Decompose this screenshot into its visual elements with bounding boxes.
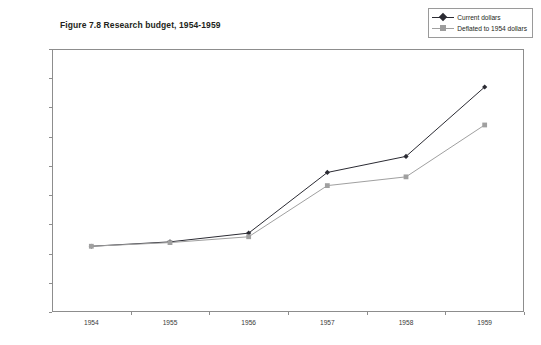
y-axis-tick-mark: [49, 312, 52, 313]
x-axis-tick-label: 1959: [477, 319, 492, 326]
data-point-marker: [404, 174, 409, 179]
x-axis-tick-label: 1955: [163, 319, 178, 326]
chart-legend: Current dollars Deflated to 1954 dollars: [428, 8, 533, 38]
x-axis-tick-mark: [367, 312, 368, 315]
legend-label-deflated-dollars: Deflated to 1954 dollars: [457, 25, 527, 32]
chart-figure: Figure 7.8 Research budget, 1954-1959 Cu…: [0, 0, 541, 345]
series-layer: [52, 49, 524, 312]
legend-swatch-current-dollars: [432, 13, 454, 22]
data-point-marker: [482, 123, 487, 128]
series-line: [91, 87, 484, 246]
x-axis-tick-label: 1958: [399, 319, 414, 326]
legend-item-deflated-dollars: Deflated to 1954 dollars: [432, 23, 527, 34]
data-point-marker: [168, 240, 173, 245]
series-line: [91, 125, 484, 246]
chart-title: Figure 7.8 Research budget, 1954-1959: [60, 20, 221, 30]
x-axis-tick-mark: [524, 312, 525, 315]
x-axis-tick-label: 1954: [84, 319, 99, 326]
x-axis-tick-mark: [131, 312, 132, 315]
legend-item-current-dollars: Current dollars: [432, 12, 527, 23]
data-point-marker: [325, 183, 330, 188]
legend-swatch-deflated-dollars: [432, 24, 454, 33]
legend-label-current-dollars: Current dollars: [457, 14, 500, 21]
data-point-marker: [246, 234, 251, 239]
x-axis-tick-label: 1956: [241, 319, 256, 326]
x-axis-tick-mark: [209, 312, 210, 315]
x-axis-tick-mark: [445, 312, 446, 315]
x-axis-tick-label: 1957: [320, 319, 335, 326]
data-point-marker: [89, 244, 94, 249]
x-axis-tick-mark: [288, 312, 289, 315]
